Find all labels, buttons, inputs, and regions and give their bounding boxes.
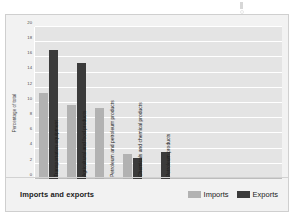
chart-card: Transportation equipmentAgricultural and… — [5, 14, 289, 212]
bar-imports[interactable] — [95, 108, 104, 179]
category-label: Agricultural and food products — [82, 111, 87, 177]
legend-item[interactable]: Exports — [237, 190, 278, 199]
y-axis-title: Percentage of total — [12, 94, 17, 133]
y-axis-tick-label: 12 — [27, 82, 32, 86]
chart-legend: ImportsExports — [188, 190, 278, 199]
legend-label: Imports — [204, 190, 229, 199]
y-axis-tick-label: 6 — [30, 127, 32, 131]
chart-footer: Imports and exports ImportsExports — [6, 177, 288, 211]
chart-title: Imports and exports — [20, 190, 94, 199]
y-axis-tick-label: 10 — [27, 97, 32, 101]
chart-page: Transportation equipmentAgricultural and… — [0, 0, 294, 224]
category-label: Transportation equipment — [54, 120, 59, 177]
bar-group: Petroleum and petroleum products — [95, 27, 122, 179]
bar-group: Transportation equipment — [39, 27, 66, 179]
legend-swatch-imports — [188, 191, 201, 198]
plot-wrapper: Transportation equipmentAgricultural and… — [34, 27, 282, 179]
bar-group: Agricultural and food products — [67, 27, 94, 179]
y-axis-tick-label: 14 — [27, 66, 32, 70]
bar-groups: Transportation equipmentAgricultural and… — [35, 27, 282, 179]
y-axis-tick-label: 16 — [27, 51, 32, 55]
category-label: Chemicals and chemical products — [138, 102, 143, 177]
legend-label: Exports — [253, 190, 278, 199]
legend-item[interactable]: Imports — [188, 190, 229, 199]
legend-swatch-exports — [237, 191, 250, 198]
page-artifact-mark — [240, 2, 243, 9]
category-label: Petroleum products — [166, 134, 171, 177]
bar-imports[interactable] — [39, 93, 48, 179]
bar-group: Petroleum products — [151, 27, 178, 179]
bar-imports[interactable] — [123, 154, 132, 179]
bar-imports[interactable] — [67, 105, 76, 179]
y-axis-tick-label: 2 — [30, 158, 32, 162]
category-label: Petroleum and petroleum products — [110, 100, 115, 177]
bar-group: Chemicals and chemical products — [123, 27, 150, 179]
plot-area: Transportation equipmentAgricultural and… — [34, 27, 282, 179]
y-axis-tick-label: 4 — [30, 142, 32, 146]
y-axis-tick-label: 20 — [27, 21, 32, 25]
y-axis-ticks: 20181614121086420 — [18, 27, 32, 179]
y-axis-tick-label: 8 — [30, 112, 32, 116]
y-axis-tick-label: 18 — [27, 36, 32, 40]
